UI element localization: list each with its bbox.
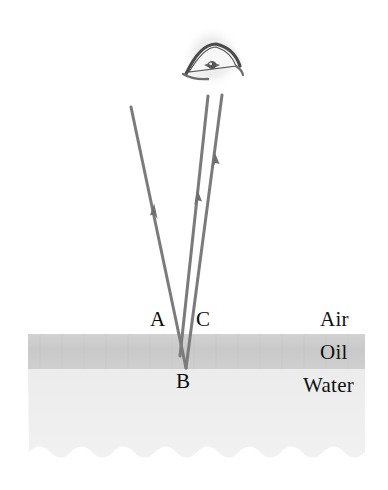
point-label-c: C bbox=[196, 309, 210, 330]
oil-layer bbox=[28, 334, 365, 369]
layer-label-air: Air bbox=[320, 309, 349, 330]
physics-diagram-figure: Air Oil Water A C B bbox=[0, 0, 388, 490]
layer-label-oil: Oil bbox=[320, 342, 348, 363]
layer-label-water: Water bbox=[303, 375, 354, 396]
eye-icon bbox=[182, 25, 243, 89]
point-label-b: B bbox=[176, 371, 190, 392]
point-label-a: A bbox=[150, 309, 165, 330]
diagram-canvas bbox=[0, 0, 388, 490]
